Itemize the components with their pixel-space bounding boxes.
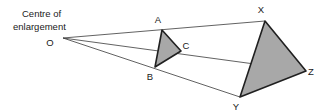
ray-O-B-Y [63,38,240,97]
triangle-abc [155,30,181,67]
diagram-canvas: O A B C X Y Z Centre of enlargement [0,0,325,112]
image-triangle-group [240,21,306,97]
caption-line-1: Centre of [22,8,61,19]
object-triangle-group [155,30,181,67]
vertex-label-c: C [183,40,190,51]
vertex-label-a: A [155,14,162,25]
vertex-label-x: X [258,4,265,15]
vertex-label-y: Y [233,101,240,112]
vertex-label-z: Z [308,66,314,77]
vertex-label-o: O [46,37,53,48]
vertex-label-b: B [147,71,153,82]
enlargement-diagram: O A B C X Y Z Centre of enlargement [0,0,325,112]
triangle-xyz [240,21,306,97]
caption-line-2: enlargement [13,21,66,32]
caption-group: Centre of enlargement [13,8,66,32]
